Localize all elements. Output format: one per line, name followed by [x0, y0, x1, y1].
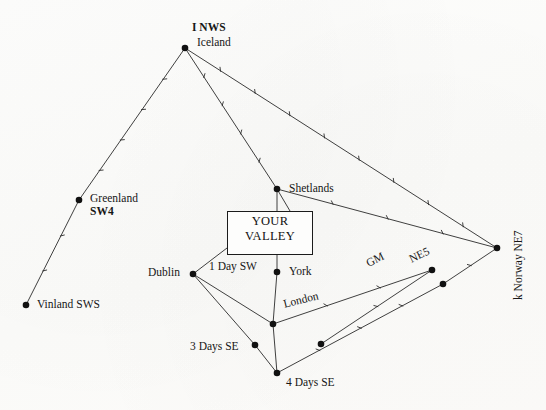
node-ne5: [429, 267, 436, 274]
annotation-one-day-sw: 1 Day SW: [209, 260, 257, 273]
diagram-canvas: YOUR VALLEY I NWSIcelandSW4GreenlandVinl…: [0, 0, 546, 410]
route-network-svg: [0, 0, 546, 410]
node-sublabel-iceland: I NWS: [192, 21, 226, 34]
node-ne5b: [440, 281, 447, 288]
node-london: [270, 321, 277, 328]
annotation-three-days-se: 3 Days SE: [190, 340, 239, 353]
node-label-vinland: Vinland SWS: [37, 298, 100, 311]
your-valley-line-2: VALLEY: [233, 229, 307, 244]
route-tick-mark: [60, 235, 65, 236]
node-label-shetlands: Shetlands: [289, 182, 334, 195]
route-edge: [443, 248, 497, 284]
node-label-dublin: Dublin: [148, 266, 180, 279]
node-label-greenland: Greenland: [90, 192, 138, 205]
route-tick-mark: [42, 270, 47, 271]
route-edge: [185, 48, 277, 189]
route-edge: [26, 200, 79, 305]
node-vinland: [23, 302, 30, 309]
node-dublin: [190, 271, 197, 278]
node-norway: [494, 245, 501, 252]
annotation-norway: k Norway NE7: [512, 230, 525, 300]
route-edge: [79, 48, 185, 200]
node-shetlands: [274, 186, 281, 193]
node-threedays: [252, 342, 259, 349]
your-valley-line-1: YOUR: [233, 214, 307, 229]
node-sublabel-greenland: SW4: [90, 205, 114, 218]
node-label-york: York: [289, 265, 311, 278]
node-greenland: [76, 197, 83, 204]
node-fourdays: [274, 370, 281, 377]
node-iceland: [182, 45, 189, 52]
node-york: [274, 269, 281, 276]
route-edge: [273, 324, 277, 373]
node-midsouth: [318, 341, 325, 348]
route-edge: [273, 272, 277, 324]
route-edge: [321, 270, 432, 344]
route-edge: [193, 274, 273, 324]
route-edge: [255, 345, 277, 373]
your-valley-box: YOUR VALLEY: [227, 211, 313, 255]
annotation-four-days-se: 4 Days SE: [286, 376, 335, 389]
node-label-iceland: Iceland: [197, 36, 231, 49]
route-edge: [193, 274, 255, 345]
